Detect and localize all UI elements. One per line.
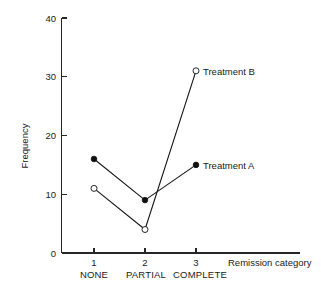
x-category-none: NONE: [80, 269, 108, 280]
y-tick-label-10: 10: [45, 189, 56, 200]
y-tick-label-0: 0: [51, 248, 56, 259]
x-category-complete: COMPLETE: [173, 269, 227, 280]
chart-figure: 40 30 20 10 0 Frequency 1 2 3 NONE PARTI…: [0, 0, 321, 289]
line-chart-canvas: 40 30 20 10 0 Frequency 1 2 3 NONE PARTI…: [0, 0, 321, 289]
data-point-b-2: [142, 227, 148, 233]
series-label-treatment-b: Treatment B: [203, 66, 255, 77]
x-tick-label-1: 1: [91, 257, 96, 268]
data-point-a-1: [91, 156, 97, 162]
data-point-a-3: [193, 162, 199, 168]
data-point-b-3: [193, 68, 199, 74]
x-axis-title: Remission category: [228, 257, 312, 268]
y-tick-label-20: 20: [45, 130, 56, 141]
data-point-a-2: [142, 197, 148, 203]
x-tick-label-2: 2: [142, 257, 147, 268]
y-tick-label-40: 40: [45, 13, 56, 24]
series-line-treatment-b: [94, 71, 196, 230]
y-axis-title: Frequency: [19, 123, 30, 168]
x-tick-label-3: 3: [193, 257, 198, 268]
y-tick-label-30: 30: [45, 71, 56, 82]
series-line-treatment-a: [94, 159, 196, 200]
x-category-partial: PARTIAL: [126, 269, 166, 280]
series-label-treatment-a: Treatment A: [203, 160, 255, 171]
data-point-b-1: [91, 185, 97, 191]
